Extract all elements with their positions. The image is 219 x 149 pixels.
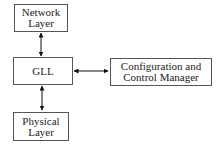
network-layer-box: Network Layer bbox=[14, 4, 68, 32]
network-layer-label-2: Layer bbox=[28, 18, 54, 29]
gll-box: GLL bbox=[13, 57, 73, 85]
config-manager-box: Configuration and Control Manager bbox=[110, 58, 212, 86]
physical-layer-label-1: Physical bbox=[22, 116, 59, 127]
gll-label: GLL bbox=[32, 66, 53, 77]
physical-layer-box: Physical Layer bbox=[13, 112, 69, 141]
config-manager-label-2: Control Manager bbox=[123, 72, 198, 83]
physical-layer-label-2: Layer bbox=[28, 127, 54, 138]
